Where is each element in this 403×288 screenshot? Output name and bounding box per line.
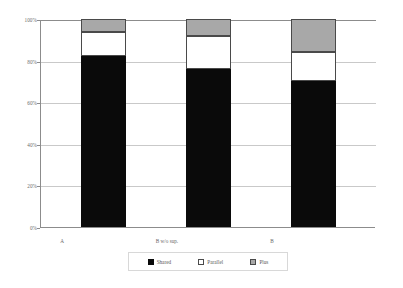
y-tick-label: 80% — [0, 59, 37, 65]
bar-segment-parallel — [291, 52, 336, 81]
bar-segment-shared — [291, 81, 336, 227]
legend-item-shared: Shared — [148, 259, 171, 265]
legend-label-shared: Shared — [157, 259, 171, 265]
legend-swatch-shared-icon — [148, 259, 154, 265]
y-tick-mark — [37, 228, 40, 229]
bar-group-b — [291, 19, 336, 227]
x-tick-label-a: A — [17, 238, 107, 244]
bar-segment-plus — [186, 19, 231, 36]
legend-swatch-plus-icon — [250, 259, 256, 265]
x-tick-label-b-wo-sup: B w/o sup. — [122, 238, 212, 244]
legend-label-parallel: Parallel — [207, 259, 223, 265]
bar-group-b-wo-sup — [186, 19, 231, 227]
y-tick-label: 0% — [0, 225, 37, 231]
legend-item-parallel: Parallel — [198, 259, 223, 265]
legend-item-plus: Plus — [250, 259, 268, 265]
legend-label-plus: Plus — [259, 259, 268, 265]
bar-segment-parallel — [81, 32, 126, 57]
bar-segment-plus — [81, 19, 126, 31]
plot-area — [40, 20, 375, 228]
bar-segment-parallel — [186, 36, 231, 69]
bar-segment-plus — [291, 19, 336, 52]
x-tick-label-b: B — [227, 238, 317, 244]
bar-segment-shared — [186, 69, 231, 227]
y-tick-label: 40% — [0, 142, 37, 148]
stacked-bar-chart: 100% 80% 60% 40% 20% 0% — [0, 0, 403, 288]
bar-group-a — [81, 19, 126, 227]
chart-legend: Shared Parallel Plus — [128, 252, 288, 271]
bar-segment-shared — [81, 56, 126, 227]
y-tick-label: 20% — [0, 183, 37, 189]
y-tick-label: 100% — [0, 17, 37, 23]
y-tick-label: 60% — [0, 100, 37, 106]
legend-swatch-parallel-icon — [198, 259, 204, 265]
